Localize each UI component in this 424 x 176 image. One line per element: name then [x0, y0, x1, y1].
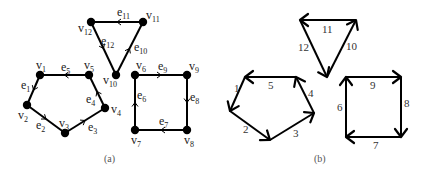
vertex-label-v2: v2 [18, 108, 28, 124]
edge-label-e4: e4 [86, 92, 95, 108]
vertex-label-v1: v1 [36, 58, 46, 74]
arrow-edge-2 [230, 111, 270, 140]
vertex-v6 [131, 71, 139, 79]
vertex-label-v8: v8 [184, 133, 194, 149]
arrow-label-7: 7 [373, 139, 379, 151]
panel-a-labeled-graph: e1e2e3e4e5e6e7e8e9e10e11e12v1v2v3v4v5v6v… [18, 5, 199, 149]
edge-label-e1: e1 [21, 78, 30, 94]
vertex-v10 [112, 71, 120, 79]
arrow-label-3: 3 [293, 127, 299, 139]
panel-b-caption: (b) [314, 153, 326, 165]
edge-label-e9: e9 [158, 59, 167, 75]
arrow-label-8: 8 [404, 97, 410, 109]
edge-label-e11: e11 [117, 5, 130, 21]
edge-label-e6: e6 [137, 88, 146, 104]
vertex-label-v4: v4 [111, 102, 121, 118]
edge-label-e7: e7 [159, 114, 168, 130]
arrow-label-9: 9 [370, 79, 376, 91]
edge-label-e5: e5 [61, 60, 70, 76]
vertex-label-v7: v7 [131, 133, 141, 149]
arrow-label-1: 1 [234, 82, 240, 94]
arrow-edge-3 [270, 113, 314, 140]
arrow-label-2: 2 [243, 123, 249, 135]
edge-label-e8: e8 [190, 90, 199, 106]
edge-label-e10: e10 [134, 40, 147, 56]
panel-b-directed-edges: 123456789101112 [228, 14, 410, 151]
arrow-label-5: 5 [268, 79, 274, 91]
vertex-v2 [23, 101, 31, 109]
edge-label-e2: e2 [36, 118, 45, 134]
vertex-label-v5: v5 [84, 58, 94, 74]
arrow-label-6: 6 [337, 101, 343, 113]
panel-a-caption: (a) [104, 153, 115, 165]
arrow-label-4: 4 [308, 87, 314, 99]
vertex-label-v3: v3 [59, 116, 69, 132]
arrow-label-10: 10 [346, 40, 358, 52]
arrow-label-11: 11 [322, 23, 333, 35]
vertex-v12 [87, 18, 95, 26]
vertex-label-v9: v9 [189, 59, 199, 75]
edge-label-e3: e3 [88, 120, 97, 136]
vertex-label-v11: v11 [146, 8, 160, 24]
vertex-label-v6: v6 [136, 58, 146, 74]
edge-label-e12: e12 [101, 34, 114, 50]
arrow-label-12: 12 [298, 41, 309, 53]
vertex-v4 [101, 104, 109, 112]
graph-figure: e1e2e3e4e5e6e7e8e9e10e11e12v1v2v3v4v5v6v… [0, 0, 424, 176]
